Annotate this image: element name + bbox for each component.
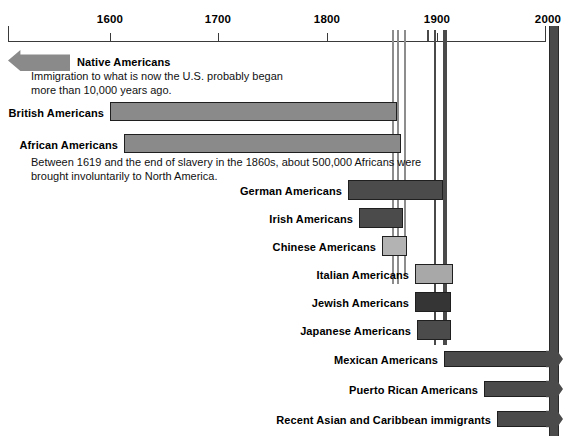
- row-label-german-americans: German Americans: [240, 185, 342, 197]
- caption-native-line-1: Immigration to what is now the U.S. prob…: [31, 70, 361, 84]
- row-label-japanese-americans: Japanese Americans: [300, 325, 411, 337]
- era-rule-4: [427, 30, 429, 41]
- axis-tick-2000: [545, 33, 546, 42]
- row-label-irish-americans: Irish Americans: [269, 213, 353, 225]
- axis-tick-1700: [218, 33, 219, 42]
- year-2000-column-bar: [549, 26, 559, 436]
- arrow-shaft-puerto-rican: [484, 381, 547, 397]
- row-label-recent-asian-caribbean: Recent Asian and Caribbean immigrants: [276, 414, 491, 426]
- arrow-head-recent-asian: [546, 408, 563, 430]
- row-label-jewish-americans: Jewish Americans: [312, 297, 409, 309]
- row-label-mexican-americans: Mexican Americans: [334, 354, 438, 366]
- arrow-shaft-recent-asian: [497, 411, 547, 427]
- bar-puerto-rican-americans: [484, 378, 563, 400]
- axis-tick-1800: [327, 33, 328, 42]
- bar-irish-americans: [359, 208, 403, 228]
- axis-label-1900: 1900: [424, 13, 450, 25]
- arrow-head-mexican: [546, 348, 563, 370]
- caption-african-americans: Between 1619 and the end of slavery in t…: [31, 156, 431, 183]
- row-label-puerto-rican-americans: Puerto Rican Americans: [349, 384, 478, 396]
- bar-german-americans: [348, 180, 443, 200]
- bar-chinese-americans: [382, 236, 407, 256]
- caption-native-line-2: more than 10,000 years ago.: [31, 84, 361, 98]
- row-label-italian-americans: Italian Americans: [317, 269, 409, 281]
- row-label-native-americans: Native Americans: [77, 56, 171, 68]
- axis-label-2000: 2000: [535, 13, 561, 25]
- bar-jewish-americans: [415, 292, 451, 312]
- axis-left-endcap: [8, 26, 9, 42]
- row-label-african-americans: African Americans: [20, 139, 119, 151]
- bar-japanese-americans: [417, 320, 451, 340]
- bar-african-americans: [124, 134, 401, 153]
- arrow-head-puerto-rican: [546, 378, 563, 400]
- arrow-shaft-mexican: [444, 351, 547, 367]
- bar-recent-asian-caribbean: [497, 408, 563, 430]
- bar-british-americans: [110, 102, 397, 121]
- bar-italian-americans: [415, 264, 453, 284]
- caption-african-line-1: Between 1619 and the end of slavery in t…: [31, 156, 431, 170]
- axis-label-1600: 1600: [97, 13, 123, 25]
- axis-label-1800: 1800: [314, 13, 340, 25]
- bar-native-americans: [8, 50, 70, 71]
- bar-mexican-americans: [444, 348, 563, 370]
- timeline-axis-line: [8, 41, 546, 42]
- row-label-chinese-americans: Chinese Americans: [273, 241, 376, 253]
- axis-label-1700: 1700: [205, 13, 231, 25]
- caption-native-americans: Immigration to what is now the U.S. prob…: [31, 70, 361, 97]
- immigration-timeline-chart: 1600 1700 1800 1900 2000 Native American…: [0, 0, 570, 436]
- axis-tick-1900: [437, 33, 438, 42]
- axis-tick-1600: [110, 33, 111, 42]
- row-label-british-americans: British Americans: [9, 107, 104, 119]
